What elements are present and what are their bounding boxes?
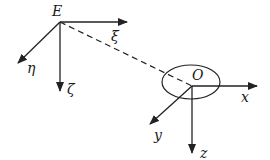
diagram-canvas: E ξ ζ η O x z y [0, 0, 270, 160]
axis-label-x: x [241, 89, 249, 105]
eta-axis-arrow [18, 22, 60, 63]
axis-label-z: z [199, 145, 208, 160]
body-ellipse [162, 65, 220, 99]
origin-label-e: E [51, 3, 62, 19]
axis-label-xi: ξ [111, 28, 120, 44]
frame-o: O x z y [150, 65, 257, 160]
axis-label-eta: η [27, 60, 36, 76]
origin-label-o: O [192, 67, 204, 83]
connector-dashed-line [60, 22, 192, 86]
axis-label-zeta: ζ [67, 81, 76, 97]
frame-e: E ξ ζ η [18, 3, 127, 97]
axis-label-y: y [153, 127, 163, 143]
y-axis-arrow [150, 86, 192, 124]
